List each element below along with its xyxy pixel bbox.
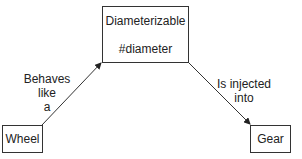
edge-label-behaves: Behaves <box>22 72 72 86</box>
edge-label-injected: Is injected <box>214 77 274 91</box>
diameter-method: #diameter <box>102 42 189 56</box>
diameterizable-title: Diameterizable <box>102 14 189 28</box>
edge-label-into: into <box>214 91 274 105</box>
gear-label: Gear <box>250 132 291 146</box>
wheel-label: Wheel <box>2 132 43 146</box>
edge-label-a: a <box>22 100 72 114</box>
edge-label-like: like <box>22 86 72 100</box>
